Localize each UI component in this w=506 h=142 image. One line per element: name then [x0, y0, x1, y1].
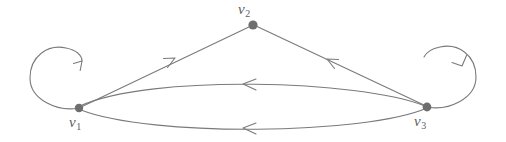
vertex-label-v1-base: v — [69, 114, 76, 130]
vertex-node-v3[interactable] — [423, 103, 432, 112]
vertex-label-v1-subscript: 1 — [76, 121, 81, 132]
vertex-label-v3: v3 — [414, 114, 426, 129]
vertex-label-v3-base: v — [414, 113, 421, 129]
vertex-label-v2: v2 — [238, 2, 250, 17]
edge-v1-to-v2 — [79, 26, 251, 108]
vertex-label-v2-base: v — [238, 1, 245, 17]
vertex-node-v2[interactable] — [248, 20, 257, 29]
edge-v1-self-loop — [30, 47, 82, 109]
vertex-label-v2-subscript: 2 — [245, 8, 250, 19]
graph-diagram: v1 v2 v3 — [0, 0, 506, 142]
vertex-node-v1[interactable] — [75, 104, 83, 112]
vertex-label-v1: v1 — [69, 115, 81, 130]
vertex-label-v3-subscript: 3 — [421, 120, 426, 131]
edge-v3-to-v2 — [256, 26, 426, 106]
edge-v3-to-v1-lower — [81, 108, 427, 134]
edge-v3-self-loop — [424, 46, 476, 108]
